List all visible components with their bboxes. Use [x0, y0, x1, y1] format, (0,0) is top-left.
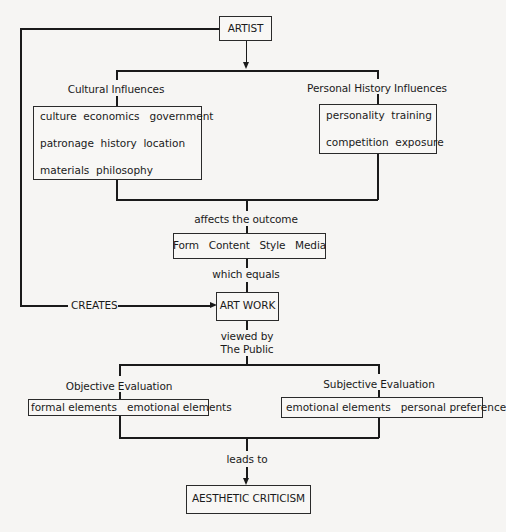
artist-label: ARTIST — [228, 22, 264, 34]
connector — [246, 199, 248, 211]
connector — [20, 28, 219, 30]
connector — [20, 305, 68, 307]
connector — [377, 94, 379, 104]
art-work-label: ART WORK — [220, 299, 276, 311]
personal-heading: Personal History Influences — [307, 82, 447, 94]
connector — [246, 259, 248, 268]
arrow-down-icon — [243, 478, 249, 485]
personal-row: personality training — [326, 109, 432, 121]
cultural-heading: Cultural Influences — [68, 83, 165, 95]
connector — [116, 70, 378, 72]
connector — [118, 305, 210, 307]
the-public-label: The Public — [221, 343, 274, 355]
leads-to-label: leads to — [226, 453, 267, 465]
connector — [378, 418, 380, 438]
connector — [377, 154, 379, 200]
objective-heading: Objective Evaluation — [66, 380, 173, 392]
connector — [377, 70, 379, 79]
cultural-row: culture economics government — [40, 110, 214, 122]
subjective-heading: Subjective Evaluation — [323, 378, 434, 390]
connector — [246, 282, 248, 292]
connector — [246, 437, 248, 451]
connector — [116, 70, 118, 80]
connector — [119, 364, 121, 376]
connector — [116, 180, 118, 200]
connector — [119, 364, 379, 366]
connector — [20, 28, 22, 306]
objective-items: formal elements emotional elements — [31, 401, 232, 413]
which-equals-label: which equals — [212, 268, 279, 280]
arrow-down-icon — [243, 62, 249, 69]
connector — [246, 321, 248, 330]
form-box-label: Form Content Style Media — [173, 239, 326, 251]
connector — [119, 416, 121, 438]
viewed-by-label: viewed by — [221, 330, 274, 342]
connector — [246, 41, 248, 63]
connector — [119, 437, 379, 439]
connector — [116, 96, 118, 106]
subjective-items: emotional elements personal preference — [286, 401, 506, 413]
aesthetic-criticism-label: AESTHETIC CRITICISM — [192, 492, 305, 504]
creates-label: CREATES — [71, 299, 118, 311]
affects-label: affects the outcome — [194, 213, 298, 225]
cultural-row: patronage history location — [40, 137, 185, 149]
personal-row: competition exposure — [326, 136, 444, 148]
cultural-row: materials philosophy — [40, 164, 153, 176]
connector — [378, 364, 380, 374]
